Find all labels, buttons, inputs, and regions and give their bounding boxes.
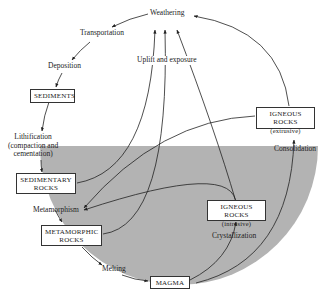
arrow-extrusive-to-weathering [194,16,289,106]
arrow-weathering-to-transportation [112,14,148,27]
label-metamorphism: Metamorphism [33,206,79,215]
box-magma: MAGMA [150,276,190,289]
label-lithification: Lithification (compaction and cementatio… [8,133,58,159]
extrusive-line2: (extrusive) [260,127,311,135]
sedimentary-line1: SEDIMENTARY [20,176,72,184]
box-sediments: SEDIMENTS [30,89,75,103]
arrow-sediments-to-lithification [42,102,49,131]
metamorphic-line1: METAMORPHIC [45,228,98,236]
label-melting: Melting [102,265,126,274]
intrusive-line2: (intrusive) [211,220,262,228]
arrow-transportation-to-deposition [72,42,90,60]
metamorphic-line2: ROCKS [45,236,98,244]
extrusive-line1: IGNEOUS ROCKS [260,110,311,127]
box-igneous-intrusive: IGNEOUS ROCKS (intrusive) [207,200,266,221]
sedimentary-line2: ROCKS [20,184,72,192]
box-igneous-extrusive: IGNEOUS ROCKS (extrusive) [256,107,315,129]
label-lithification-3: cementation) [8,150,58,159]
label-deposition: Deposition [48,62,81,71]
label-crystallization: Crystallization [212,232,256,241]
label-weathering: Weathering [150,9,184,18]
intrusive-line1: IGNEOUS ROCKS [211,203,262,220]
box-metamorphic-rocks: METAMORPHIC ROCKS [41,225,102,246]
arrow-deposition-to-sediments [56,73,62,87]
box-sedimentary-rocks: SEDIMENTARY ROCKS [16,173,76,194]
subsurface-shade [40,146,318,285]
label-uplift: Uplift and exposure [137,56,197,65]
label-consolidation: Consolidation [274,145,316,154]
label-transportation: Transportation [80,29,124,38]
